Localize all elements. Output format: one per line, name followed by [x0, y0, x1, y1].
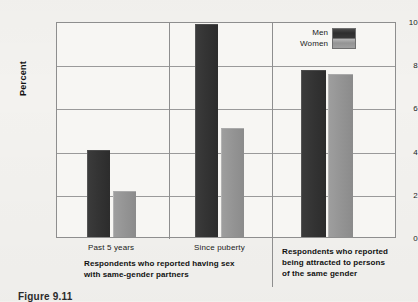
bar-women-past-5-years: [113, 191, 136, 237]
caption-group-right: Respondents who reported being attracted…: [282, 246, 388, 279]
caption-group-left-line1: Respondents who reported having sex: [84, 258, 235, 269]
group-separator-2: [272, 22, 273, 287]
legend-label-women: Women: [300, 39, 328, 49]
plot-area: [56, 22, 396, 238]
legend-label-men: Men: [312, 28, 328, 38]
bar-men-since-puberty: [195, 24, 218, 237]
gridline-8: [57, 66, 395, 67]
caption-group-right-line3: of the same gender: [282, 268, 388, 279]
caption-group-left-line2: with same-gender partners: [84, 269, 235, 280]
bar-men-attracted: [301, 70, 326, 237]
group-separator-1: [169, 23, 170, 239]
legend-swatch-women: [333, 38, 355, 48]
bar-women-since-puberty: [221, 128, 244, 237]
bar-men-past-5-years: [87, 150, 110, 237]
legend-swatch-men: [333, 29, 355, 38]
figure-caption: Figure 9.11: [18, 291, 72, 302]
category-label-past-5-years: Past 5 years: [88, 243, 134, 252]
caption-group-left: Respondents who reported having sex with…: [84, 258, 235, 280]
caption-group-right-line1: Respondents who reported: [282, 246, 388, 257]
category-label-since-puberty: Since puberty: [194, 243, 245, 252]
legend: Men Women: [300, 28, 356, 49]
legend-labels: Men Women: [300, 28, 328, 49]
caption-group-right-line2: being attracted to persons: [282, 257, 388, 268]
y-axis-title: Percent: [18, 61, 28, 96]
legend-swatches: [332, 28, 356, 49]
bar-women-attracted: [328, 74, 353, 237]
